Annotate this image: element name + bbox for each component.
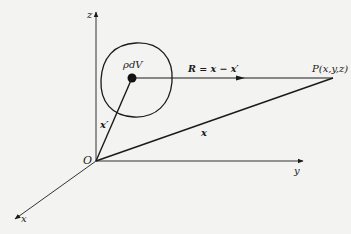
x-axis (15, 161, 96, 219)
source-position-label: x′ (99, 119, 109, 130)
vector-diagram: z y x O ρdV R = x − x′ x′ x P(x,y,z) (0, 0, 351, 234)
source-volume-outline (101, 43, 172, 117)
origin-label: O (83, 154, 92, 167)
field-point-label: P(x,y,z) (311, 63, 348, 74)
y-axis-label: y (293, 165, 300, 176)
charge-element-label: ρdV (122, 59, 144, 70)
diagram-canvas: z y x O ρdV R = x − x′ x′ x P(x,y,z) (0, 0, 351, 234)
separation-vector-label: R = x − x′ (187, 63, 239, 74)
field-position-label: x (200, 127, 208, 138)
x-axis-label: x (21, 213, 27, 224)
separation-arrowhead-icon (236, 76, 245, 81)
field-position-vector (96, 78, 333, 161)
z-axis-label: z (86, 9, 93, 20)
